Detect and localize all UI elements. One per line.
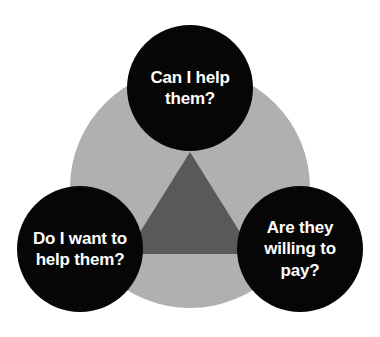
node-circle-are-they-willing-to-pay[interactable] <box>237 186 363 312</box>
diagram-canvas: Can I help them? Do I want to help them?… <box>0 0 380 337</box>
node-circle-can-i-help-them[interactable] <box>127 25 253 151</box>
venn-diagram-graphic <box>0 0 380 337</box>
node-circle-do-i-want-to-help-them[interactable] <box>17 186 143 312</box>
